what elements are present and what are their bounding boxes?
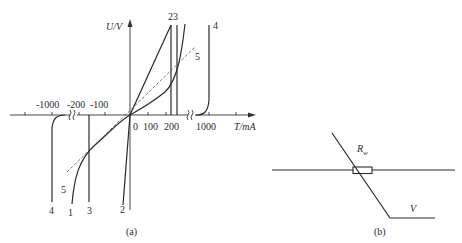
figure-b-caption: (b)	[374, 226, 386, 238]
tick-label-neg-1000: -1000	[36, 99, 59, 110]
tick-label-neg-200: -200	[67, 99, 85, 110]
curve-label-5-top: 5	[195, 51, 200, 62]
y-axis-arrow-icon	[128, 19, 133, 27]
curve-label-2-bottom: 2	[120, 204, 125, 215]
resistor-label: Rw	[356, 143, 368, 157]
curve-5-dashed	[67, 47, 195, 172]
y-axis-label: U/V	[106, 21, 124, 32]
curve-label-23: 23	[168, 11, 178, 22]
curve-label-1: 1	[68, 207, 73, 218]
origin-label: 0	[133, 121, 138, 132]
x-axis-break-right-icon	[187, 110, 193, 120]
curve-4-positive	[196, 25, 209, 115]
tick-label-200: 200	[164, 121, 179, 132]
x-axis-arrow-icon	[248, 113, 256, 118]
tick-label-1000: 1000	[196, 121, 216, 132]
figure-b-circuit: Rw V (b)	[272, 133, 455, 238]
figure-a-caption: (a)	[126, 226, 137, 238]
curve-label-4-bottom: 4	[49, 205, 54, 216]
tick-label-100: 100	[143, 121, 158, 132]
figure-a-characteristic-curves: U/V T/mA 0 -1000 -200 -100 100 200 1000 …	[10, 11, 257, 238]
x-axis-label: T/mA	[234, 121, 257, 132]
voltage-label: V	[410, 203, 418, 214]
curve-label-3-bottom: 3	[87, 205, 92, 216]
figure-canvas: U/V T/mA 0 -1000 -200 -100 100 200 1000 …	[0, 0, 462, 243]
curve-label-5-bottom: 5	[61, 184, 66, 195]
voltage-lead-line	[332, 133, 435, 218]
curve-label-4-top: 4	[213, 20, 218, 31]
x-axis-break-left-icon	[69, 110, 75, 120]
tick-label-neg-100: -100	[90, 99, 108, 110]
